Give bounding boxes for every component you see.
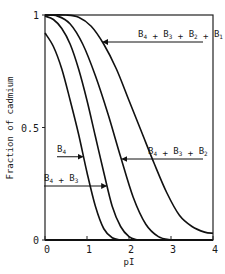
x-axis-label: pI [124,257,135,267]
annotation-label: B4 + B3 + B2 [148,146,208,158]
axis-ticks: 0123400.51 [21,10,218,255]
chart-figure: 0123400.51 B4B4 + B3B4 + B3 + B2B4 + B3 … [0,0,225,274]
curve-1 [45,33,121,240]
curve-2 [45,16,137,240]
plot-border [45,15,213,240]
x-tick-label: 3 [170,244,176,255]
y-tick-label: 0 [33,235,39,246]
annotation-label: B4 [57,144,66,155]
x-tick-label: 4 [212,244,218,255]
plot-frame [45,15,213,240]
y-tick-label: 0.5 [21,123,39,134]
curve-annotations: B4B4 + B3B4 + B3 + B2B4 + B3 + B2 + B1 [44,29,223,186]
y-tick-label: 1 [33,10,39,21]
y-axis-label: Fraction of cadmium [5,77,15,180]
curve-4 [45,15,213,233]
x-tick-label: 1 [86,244,92,255]
data-curves [45,15,213,240]
x-tick-label: 2 [128,244,134,255]
annotation-label: B4 + B3 [44,173,79,185]
x-tick-label: 0 [44,244,50,255]
annotation-label: B4 + B3 + B2 + B1 [138,29,223,41]
curve-3 [45,15,171,240]
